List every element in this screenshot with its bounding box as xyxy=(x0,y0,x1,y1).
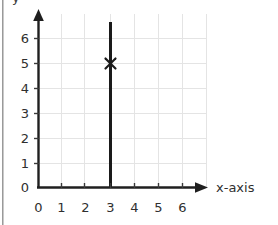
x-tick-labels: 0 1 2 3 4 5 6 xyxy=(34,200,186,215)
coordinate-plane: 0 1 2 3 4 5 6 0 1 2 3 4 5 6 x-axis xyxy=(0,0,278,225)
x-tick-label-5: 5 xyxy=(154,200,162,215)
x-tick-label-2: 2 xyxy=(81,200,89,215)
x-tick-label-1: 1 xyxy=(57,200,65,215)
y-tick-labels: 0 1 2 3 4 5 6 xyxy=(21,31,29,195)
grid-lines xyxy=(38,14,207,187)
x-tick-label-0: 0 xyxy=(34,200,42,215)
x-tick-label-6: 6 xyxy=(178,200,186,215)
x-axis-title: x-axis xyxy=(216,180,255,195)
y-tick-label-5: 5 xyxy=(21,56,29,71)
y-tick-label-2: 2 xyxy=(21,131,29,146)
graph-canvas: y xyxy=(0,0,278,225)
y-axis-arrow-icon xyxy=(33,9,44,21)
x-tick-label-3: 3 xyxy=(106,200,114,215)
y-tick-label-0: 0 xyxy=(21,180,29,195)
x-tick-label-4: 4 xyxy=(130,200,138,215)
y-tick-label-3: 3 xyxy=(21,106,29,121)
y-tick-label-6: 6 xyxy=(21,31,29,46)
y-tick-label-4: 4 xyxy=(21,81,29,96)
y-tick-label-1: 1 xyxy=(21,156,29,171)
